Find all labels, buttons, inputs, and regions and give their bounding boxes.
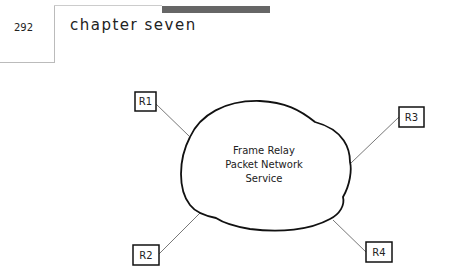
router-r3-label: R3 <box>405 112 418 123</box>
router-r2-label: R2 <box>139 250 152 261</box>
router-r4: R4 <box>366 242 392 262</box>
cloud-label-line-1: Frame Relay <box>233 145 295 156</box>
router-r2: R2 <box>133 245 159 265</box>
router-r4-label: R4 <box>372 247 385 258</box>
router-r1-label: R1 <box>139 96 152 107</box>
link-r3 <box>351 117 399 163</box>
link-r1 <box>156 104 189 136</box>
router-r1: R1 <box>135 92 156 111</box>
frame-relay-diagram: Frame Relay Packet Network Service R1 R3… <box>0 0 464 277</box>
cloud-label-line-3: Service <box>246 173 283 184</box>
link-r4 <box>333 220 367 253</box>
link-r2 <box>159 213 200 254</box>
cloud-label-line-2: Packet Network <box>225 159 303 170</box>
router-r3: R3 <box>399 107 424 127</box>
